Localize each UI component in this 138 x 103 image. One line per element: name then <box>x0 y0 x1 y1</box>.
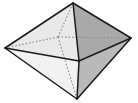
octahedron-diagram <box>0 0 138 103</box>
octahedron-figure <box>0 0 138 103</box>
